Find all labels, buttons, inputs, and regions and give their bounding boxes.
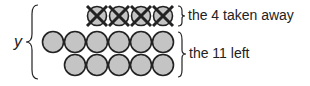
circle [65,32,86,53]
circle [109,32,130,53]
taken-brace [178,6,185,26]
circle [153,55,174,76]
left-label: the 11 left [189,45,249,61]
circle [109,55,130,76]
counting-diagram: y the 4 taken away the 11 left [0,0,310,86]
left-brace [178,32,186,77]
circle [131,32,152,53]
taken-away-label: the 4 taken away [188,7,294,23]
y-brace [26,5,38,79]
circle [87,55,108,76]
circle [153,32,174,53]
circle [87,32,108,53]
circle [43,32,64,53]
circle [131,55,152,76]
variable-y: y [14,33,22,51]
circle [65,55,86,76]
